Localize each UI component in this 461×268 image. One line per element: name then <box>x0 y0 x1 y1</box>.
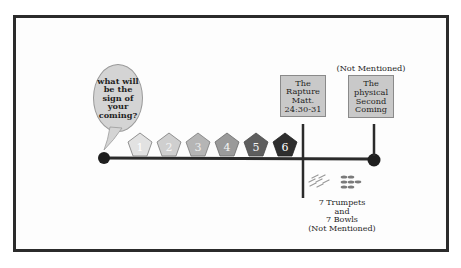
bubble-tail <box>104 127 122 150</box>
second-coming-note: (Not Mentioned) <box>336 63 406 73</box>
rapture-box: The Rapture Matt. 24:30-31 <box>280 75 326 117</box>
timeline-line <box>104 158 374 159</box>
bowls-icon <box>341 175 362 188</box>
svg-text:6: 6 <box>282 141 289 154</box>
second-coming-text: The physical Second Coming <box>354 79 388 113</box>
svg-text:1: 1 <box>137 141 144 154</box>
svg-text:3: 3 <box>195 141 202 154</box>
svg-text:5: 5 <box>253 141 260 154</box>
sign-5: 5 <box>244 133 268 156</box>
svg-text:2: 2 <box>166 141 173 154</box>
trumpets-icon <box>309 175 329 187</box>
timeline-graphic: 1 2 3 4 5 6 <box>0 0 461 268</box>
svg-text:4: 4 <box>224 141 231 154</box>
timeline-start-dot <box>98 152 110 164</box>
rapture-text: The Rapture Matt. 24:30-31 <box>285 79 322 113</box>
second-coming-box: The physical Second Coming <box>348 75 394 118</box>
judgments-caption: 7 Trumpets and 7 Bowls (Not Mentioned) <box>300 199 384 233</box>
sign-3: 3 <box>186 133 210 156</box>
sign-6: 6 <box>273 133 297 156</box>
sign-2: 2 <box>157 133 181 156</box>
sign-4: 4 <box>215 133 239 156</box>
sign-1: 1 <box>128 133 152 156</box>
